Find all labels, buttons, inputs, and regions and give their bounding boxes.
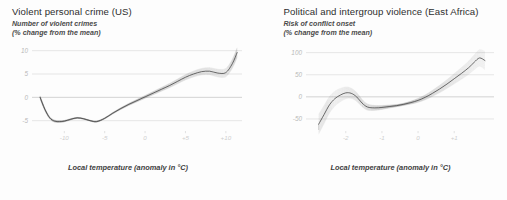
uncertainty-line: [40, 53, 237, 122]
uncertainty-line: [318, 54, 484, 120]
y-tick-label: -50: [292, 115, 302, 122]
uncertainty-line: [318, 53, 484, 118]
figure-container: Violent personal crime (US) Number of vi…: [0, 0, 507, 200]
y-tick-label: 0: [24, 94, 28, 101]
data-line: [40, 53, 237, 122]
x-tick-label: -5: [102, 134, 108, 141]
uncertainty-line: [40, 48, 237, 122]
chart-subtitle-left-line1: Number of violent crimes: [12, 20, 248, 29]
x-tick-label: 0: [416, 134, 420, 141]
x-tick-label: +1: [450, 134, 457, 141]
chart-subtitle-right-line1: Risk of conflict onset: [284, 20, 504, 29]
uncertainty-line: [318, 53, 484, 118]
x-axis-label-right: Local temperature (anomaly in °C): [284, 163, 498, 172]
plot-area-left: 1050-5-10-50+5+10: [12, 40, 244, 152]
uncertainty-line: [40, 55, 237, 122]
uncertainty-line: [40, 55, 237, 122]
uncertainty-line: [40, 53, 237, 122]
uncertainty-line: [40, 56, 237, 123]
chart-title-left: Violent personal crime (US): [12, 6, 248, 18]
chart-subtitle-right-line2: (% change from the mean): [284, 29, 504, 38]
uncertainty-line: [40, 56, 237, 122]
uncertainty-line: [40, 55, 237, 123]
plot-svg-right: 100500-50-2-10+1: [284, 40, 498, 152]
uncertainty-line: [40, 48, 237, 121]
uncertainty-line: [40, 51, 237, 122]
uncertainty-line: [40, 53, 237, 122]
x-tick-label: -10: [60, 134, 70, 141]
uncertainty-line: [40, 49, 237, 121]
chart-panel-violent-crime: Violent personal crime (US) Number of vi…: [0, 0, 254, 200]
uncertainty-line: [40, 51, 237, 122]
uncertainty-band: [40, 48, 237, 123]
uncertainty-band: [318, 50, 484, 135]
y-tick-label: -5: [22, 117, 28, 124]
y-tick-label: 50: [294, 71, 302, 78]
chart-panel-political-violence: Political and intergroup violence (East …: [254, 0, 507, 200]
uncertainty-line: [40, 57, 237, 123]
uncertainty-line: [40, 52, 237, 122]
y-tick-label: 10: [21, 47, 29, 54]
uncertainty-line: [40, 49, 237, 122]
uncertainty-line: [40, 49, 237, 122]
chart-subtitle-left-line2: (% change from the mean): [12, 29, 248, 38]
chart-title-right: Political and intergroup violence (East …: [284, 6, 504, 18]
uncertainty-line: [40, 52, 237, 122]
x-tick-label: +10: [221, 134, 232, 141]
uncertainty-line: [40, 57, 237, 122]
plot-area-right: 100500-50-2-10+1: [284, 40, 498, 152]
uncertainty-line: [40, 50, 237, 122]
uncertainty-line: [318, 54, 484, 119]
plot-svg-left: 1050-5-10-50+5+10: [12, 40, 244, 152]
y-tick-label: 5: [24, 70, 28, 77]
x-tick-label: -2: [343, 134, 349, 141]
x-axis-label-left: Local temperature (anomaly in °C): [12, 163, 244, 172]
uncertainty-line: [40, 51, 237, 121]
uncertainty-line: [40, 54, 237, 122]
uncertainty-line: [40, 54, 237, 122]
y-tick-label: 100: [291, 49, 302, 56]
x-tick-label: +5: [182, 134, 190, 141]
uncertainty-line: [40, 50, 237, 121]
x-tick-label: 0: [143, 134, 147, 141]
uncertainty-line: [318, 51, 484, 116]
y-tick-label: 0: [298, 93, 302, 100]
x-tick-label: -1: [379, 134, 385, 141]
uncertainty-line: [40, 58, 237, 123]
uncertainty-line: [318, 52, 484, 117]
uncertainty-line: [40, 57, 237, 123]
